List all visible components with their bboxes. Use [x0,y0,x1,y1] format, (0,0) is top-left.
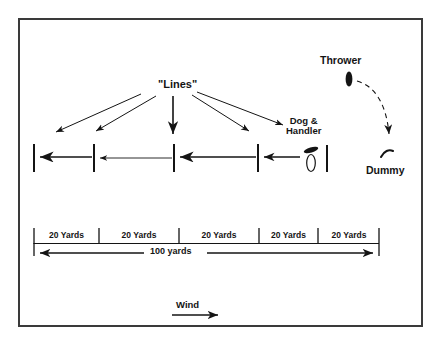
lines-label: "Lines" [158,79,197,91]
diagram-frame-border [18,18,423,327]
yard-segment-label: 20 Yards [319,231,379,240]
dog-handler-label-line2: Handler [286,126,321,136]
total-distance-label: 100 yards [150,247,192,256]
wind-label: Wind [176,300,199,310]
yard-segment-label: 20 Yards [259,231,318,240]
diagram-page: "Lines" Thrower Dummy Dog & Handler Wind… [0,0,439,346]
dog-handler-label: Dog & Handler [286,116,321,136]
yard-segment-label: 20 Yards [99,231,179,240]
yard-segment-label: 20 Yards [179,231,259,240]
thrower-label: Thrower [320,55,361,66]
dummy-label: Dummy [366,165,405,176]
yard-segment-label: 20 Yards [34,231,99,240]
